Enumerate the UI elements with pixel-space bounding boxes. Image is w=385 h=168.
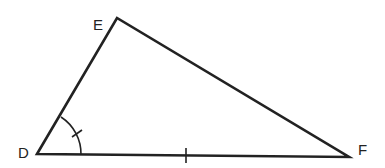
triangle-diagram: E D F — [0, 0, 385, 168]
triangle-def — [37, 18, 349, 157]
vertex-label-f: F — [358, 141, 367, 158]
vertex-label-e: E — [93, 16, 103, 33]
vertex-label-d: D — [18, 144, 29, 161]
angle-d-arc — [61, 117, 81, 155]
